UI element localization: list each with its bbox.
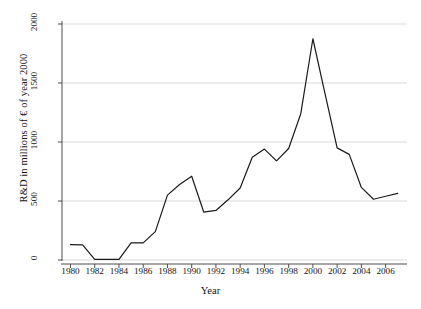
gridlines <box>61 24 407 260</box>
x-axis-title: Year <box>0 285 421 296</box>
data-series <box>70 39 397 260</box>
y-tick-label: 1000 <box>14 135 54 145</box>
y-axis-title: R&D in millions of € of year 2000 <box>14 0 34 258</box>
chart-figure: R&D in millions of € of year 2000 Year 0… <box>0 0 421 309</box>
y-tick-label: 2000 <box>14 17 54 27</box>
y-tick-label: 500 <box>14 194 54 204</box>
y-tick-label: 1500 <box>14 76 54 86</box>
plot-area <box>0 0 421 309</box>
series-line <box>70 39 397 260</box>
x-tick-label: 2006 <box>366 266 406 276</box>
y-tick-label: 0 <box>14 253 54 263</box>
